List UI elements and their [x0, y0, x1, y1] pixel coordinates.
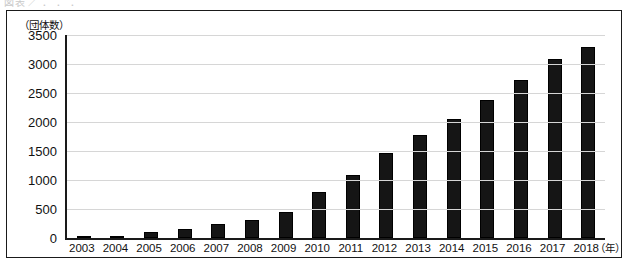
bar-slot	[403, 35, 437, 238]
scan-cut-caption-strip: 図表 ／ ． ． ．	[0, 0, 628, 9]
bar	[110, 236, 124, 238]
bar	[279, 212, 293, 238]
gridline	[67, 64, 605, 65]
bar-series	[67, 35, 605, 238]
x-axis-tick-labels: 2003200420052006200720082009201020112012…	[65, 240, 603, 257]
bar-slot	[302, 35, 336, 238]
y-axis-tick-label: 2000	[28, 116, 57, 129]
bar-slot	[134, 35, 168, 238]
gridline	[67, 180, 605, 181]
bar-slot	[269, 35, 303, 238]
bar	[245, 220, 259, 238]
bar-slot	[437, 35, 471, 238]
scan-cut-caption-text: 図表 ／ ． ． ．	[4, 0, 80, 9]
x-axis-tick-label: 2009	[267, 240, 301, 257]
plot-area	[65, 35, 605, 240]
bar-slot	[571, 35, 605, 238]
gridline	[67, 209, 605, 210]
bar	[514, 80, 528, 238]
y-axis-tick-label: 3500	[28, 29, 57, 42]
x-axis-tick-label: 2010	[300, 240, 334, 257]
x-axis-tick-label: 2013	[401, 240, 435, 257]
bar-slot	[235, 35, 269, 238]
bar-slot	[168, 35, 202, 238]
x-axis-tick-label: 2012	[368, 240, 402, 257]
bar	[144, 232, 158, 238]
bar	[346, 175, 360, 238]
x-axis-tick-label: 2003	[65, 240, 99, 257]
bar-slot	[471, 35, 505, 238]
x-axis-tick-label: 2004	[99, 240, 133, 257]
gridline	[67, 122, 605, 123]
y-axis-tick-label: 500	[35, 203, 57, 216]
bar-slot	[202, 35, 236, 238]
chart-figure-frame: （団体数） 3500300025002000150010005000 20032…	[6, 10, 622, 258]
y-axis-tick-label: 0	[50, 232, 57, 245]
y-axis-tick-labels: 3500300025002000150010005000	[7, 11, 63, 257]
y-axis-tick-label: 1000	[28, 174, 57, 187]
bar	[178, 229, 192, 238]
x-axis-tick-label: 2007	[200, 240, 234, 257]
y-axis-tick-label: 3000	[28, 58, 57, 71]
bar-slot	[504, 35, 538, 238]
bar	[211, 224, 225, 238]
x-axis-tick-label: 2014	[435, 240, 469, 257]
x-axis-tick-label: 2006	[166, 240, 200, 257]
gridline	[67, 151, 605, 152]
bar-slot	[101, 35, 135, 238]
bar	[548, 59, 562, 238]
x-axis-tick-label: 2008	[233, 240, 267, 257]
bar-slot	[336, 35, 370, 238]
bar	[77, 236, 91, 238]
bar-slot	[67, 35, 101, 238]
x-axis-unit-label: （年）	[595, 240, 625, 256]
x-axis-tick-label: 2017	[536, 240, 570, 257]
gridline	[67, 35, 605, 36]
x-axis-tick-label: 2015	[469, 240, 503, 257]
bar-slot	[370, 35, 404, 238]
bar	[480, 100, 494, 238]
bar-slot	[538, 35, 572, 238]
x-axis-tick-label: 2016	[502, 240, 536, 257]
x-axis-tick-label: 2011	[334, 240, 368, 257]
bar	[447, 119, 461, 238]
gridline	[67, 93, 605, 94]
bar-chart: 3500300025002000150010005000 20032004200…	[7, 11, 621, 257]
x-axis-tick-label: 2005	[132, 240, 166, 257]
bar	[379, 153, 393, 238]
bar	[312, 192, 326, 238]
y-axis-tick-label: 2500	[28, 87, 57, 100]
y-axis-tick-label: 1500	[28, 145, 57, 158]
